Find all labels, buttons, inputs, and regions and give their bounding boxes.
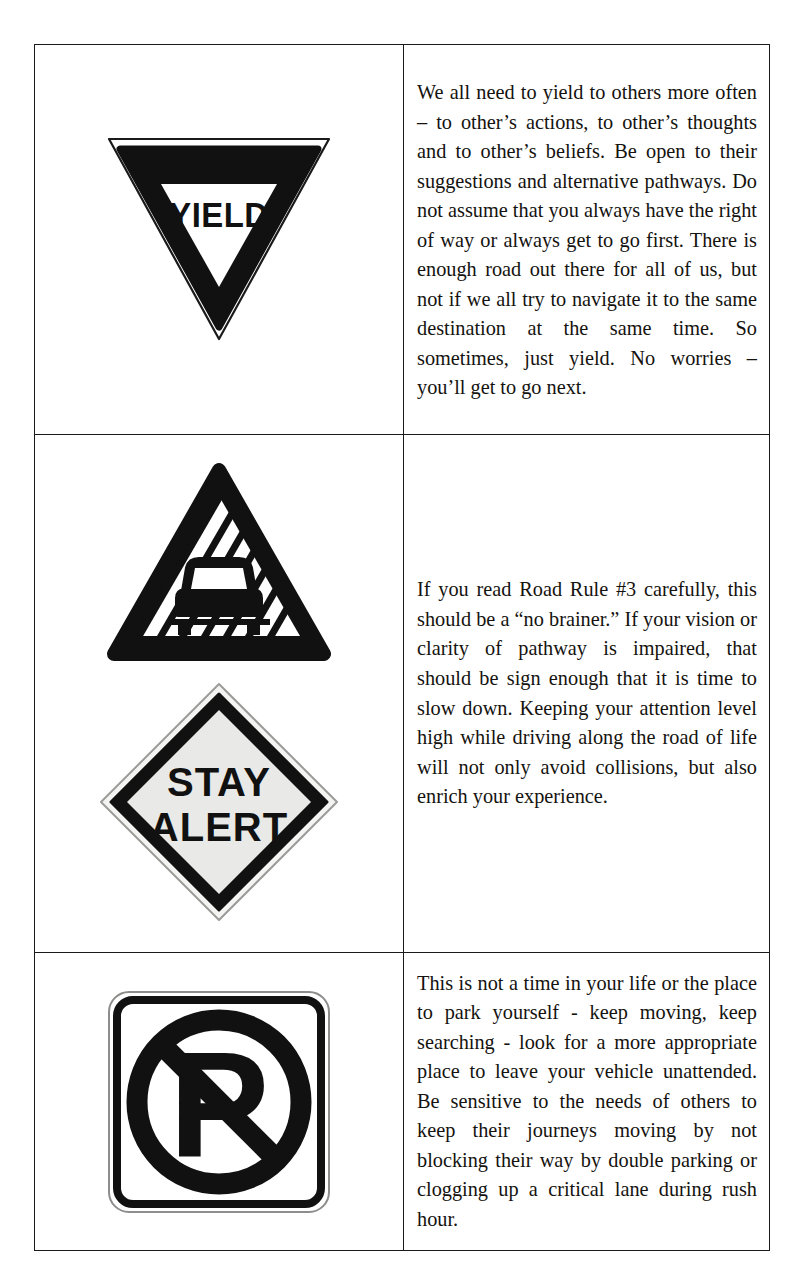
sign-cell-yield: YIELD	[35, 45, 404, 435]
sign-stack: STAY ALERT	[35, 462, 403, 926]
sign-cell-no-parking: P	[35, 953, 404, 1251]
table-row: P This is not a time in your life or the…	[35, 953, 770, 1251]
rule-paragraph-no-parking: This is not a time in your life or the p…	[404, 969, 769, 1235]
rule-paragraph-yield: We all need to yield to others more ofte…	[404, 76, 769, 403]
table-row: STAY ALERT If you read Road Rule #3 care…	[35, 435, 770, 953]
text-cell-rule-stayalert: If you read Road Rule #3 carefully, this…	[404, 435, 770, 953]
rule-paragraph-stayalert: If you read Road Rule #3 carefully, this…	[404, 575, 769, 811]
sign-stack: YIELD	[35, 127, 403, 352]
yield-sign-label: YIELD	[169, 195, 268, 234]
sign-stack: P	[35, 984, 403, 1220]
stay-alert-label-line1: STAY	[167, 760, 271, 804]
road-rules-table: YIELD We all need to yield to others mor…	[34, 44, 770, 1251]
text-cell-rule-yield: We all need to yield to others more ofte…	[404, 45, 770, 435]
text-cell-rule-no-parking: This is not a time in your life or the p…	[404, 953, 770, 1251]
no-parking-sign-icon: P	[103, 984, 335, 1220]
stay-alert-sign-icon: STAY ALERT	[95, 678, 343, 926]
page-canvas: YIELD We all need to yield to others mor…	[0, 0, 794, 1276]
yield-sign-icon: YIELD	[99, 127, 339, 352]
stay-alert-label-line2: ALERT	[150, 805, 288, 849]
slippery-road-sign-icon	[106, 462, 332, 662]
sign-cell-slippery-stayalert: STAY ALERT	[35, 435, 404, 953]
table-row: YIELD We all need to yield to others mor…	[35, 45, 770, 435]
